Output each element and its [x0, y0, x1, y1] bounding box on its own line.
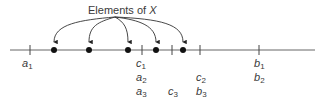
element-dot — [180, 47, 186, 53]
label-a2: a2 — [136, 72, 147, 85]
element-dot — [125, 47, 131, 53]
set-variable-x: X — [149, 4, 156, 16]
element-dot — [86, 47, 92, 53]
number-line-diagram — [0, 0, 328, 103]
pointer-arrows — [54, 17, 183, 42]
label-b3: b3 — [196, 86, 207, 99]
element-dot — [153, 47, 159, 53]
label-c2: c2 — [196, 72, 206, 85]
element-dot — [51, 47, 57, 53]
label-a1: a1 — [22, 58, 33, 71]
arrow-5 — [115, 17, 183, 42]
arrow-3 — [115, 17, 128, 42]
arrow-2 — [89, 17, 115, 42]
label-b1: b1 — [254, 58, 265, 71]
elements-of-x-label: Elements of X — [88, 4, 156, 16]
label-c3: c3 — [168, 86, 178, 99]
label-b2: b2 — [254, 72, 265, 85]
label-a3: a3 — [136, 86, 147, 99]
arrow-1 — [54, 17, 115, 42]
label-c1: c1 — [136, 58, 146, 71]
arrow-4 — [115, 17, 156, 42]
